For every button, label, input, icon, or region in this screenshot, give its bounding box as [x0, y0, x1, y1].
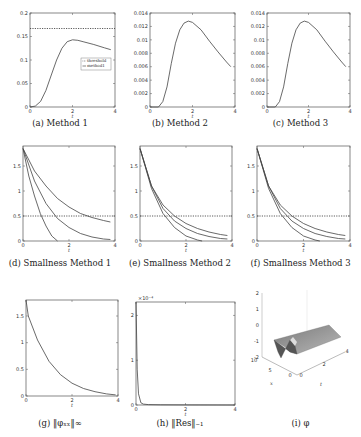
z-tick-label: 0	[256, 322, 259, 328]
y-tick-label: 0.014	[251, 10, 265, 16]
chart-g: 00.511.5024t	[0, 290, 120, 437]
x-tick-label: 4	[230, 242, 233, 248]
plot-frame	[26, 300, 118, 396]
panel-i: 210-1-21050024xt (i) φ	[240, 290, 361, 437]
series-res	[136, 302, 235, 405]
y-tick-label: 0.012	[251, 23, 265, 29]
panel-g: 00.511.5024t (g) ‖φₓₓ‖∞	[0, 290, 120, 437]
caption-b: (b) Method 2	[120, 118, 240, 128]
x-tick-label: 0	[24, 397, 27, 403]
y-scale-note: ×10⁻⁴	[138, 295, 153, 301]
y-tick-label: 0.004	[251, 77, 265, 83]
caption-a: (a) Method 1	[0, 118, 120, 128]
series-method1	[30, 40, 111, 107]
x-tick-label: 0	[265, 108, 268, 114]
series-curve2	[23, 149, 110, 240]
y-tick-label: 0.014	[134, 10, 148, 16]
series-method3	[267, 21, 346, 107]
y-tick-label: 0.008	[251, 50, 265, 56]
x-tick-label: 4	[113, 108, 116, 114]
x-tick-label: 4	[348, 242, 351, 248]
y-tick-label: 0.5	[247, 213, 255, 219]
y-tick-label: 0.008	[134, 50, 148, 56]
x-tick-label: 4	[233, 406, 236, 412]
y-tick-label: 1.5	[13, 163, 21, 169]
series-curve3	[23, 149, 110, 223]
z-tick-label: -1	[254, 338, 259, 344]
y-tick-label: 1.5	[130, 163, 138, 169]
y-tick-label: 2	[131, 312, 134, 318]
y-tick-label: 0.5	[13, 213, 21, 219]
series-curve2	[140, 149, 227, 240]
surface-plot: 210-1-21050024xt	[251, 290, 349, 387]
z-tick-label: 1	[256, 306, 259, 312]
y-tick-label: 0.006	[134, 63, 148, 69]
y-tick-label: 0.2	[20, 10, 28, 16]
plot-frame	[267, 13, 350, 107]
x-tick-label: 0	[148, 108, 151, 114]
y-tick-label: 0.5	[16, 366, 24, 372]
y-tick-label: 1	[252, 188, 255, 194]
chart-h: 012024t×10⁻⁴	[120, 290, 240, 437]
legend: thresholdmethod1	[81, 58, 111, 70]
caption-g: (g) ‖φₓₓ‖∞	[0, 418, 120, 428]
plot-frame	[150, 13, 235, 107]
x-tick-label: 0	[21, 242, 24, 248]
panel-h: 012024t×10⁻⁴ (h) ‖Res‖₋₁	[120, 290, 240, 437]
y-tick-label: 1	[135, 188, 138, 194]
series-curve1	[257, 149, 320, 242]
y-axis-label: x	[270, 380, 273, 386]
x-tick-label: 0	[255, 242, 258, 248]
x-tick-label: 4	[113, 242, 116, 248]
caption-c: (c) Method 3	[240, 118, 361, 128]
y-tick-label: 0.5	[130, 213, 138, 219]
y-tick-label: 1	[21, 339, 24, 345]
panel-f: 00.511.5024t (f) Smallness Method 3	[240, 140, 361, 290]
x-tick-label: 0	[299, 372, 302, 378]
y-tick-label: 1.5	[16, 313, 24, 319]
caption-f: (f) Smallness Method 3	[240, 258, 361, 268]
caption-h: (h) ‖Res‖₋₁	[120, 418, 240, 428]
y-tick-label: 0.004	[134, 77, 148, 83]
y-tick-label: 0.15	[17, 33, 28, 39]
series-phi_xx_inf	[26, 300, 116, 395]
y-tick-label: 10	[251, 357, 257, 363]
x-tick-label: 4	[233, 108, 236, 114]
y-tick-label: 0.01	[137, 37, 148, 43]
panel-d: 00.511.5024t (d) Smallness Method 1	[0, 140, 120, 290]
y-tick-label: 0.012	[134, 23, 148, 29]
y-tick-label: 5	[268, 367, 271, 373]
chart-i: 210-1-21050024xt	[240, 290, 361, 437]
x-tick-label: 2	[322, 361, 325, 367]
panel-c: 00.0020.0040.0060.0080.010.0120.014024t …	[240, 0, 361, 140]
plot-frame	[136, 302, 235, 405]
y-tick-label: 1	[18, 188, 21, 194]
y-tick-label: 0.1	[20, 57, 28, 63]
panel-b: 00.0020.0040.0060.0080.010.0120.014024t …	[120, 0, 240, 140]
x-tick-label: 4	[345, 348, 348, 354]
y-tick-label: 0.002	[251, 90, 265, 96]
x-axis-label: t	[320, 381, 323, 387]
y-tick-label: 0.006	[251, 63, 265, 69]
panel-a: 00.050.10.150.2024tthresholdmethod1 (a) …	[0, 0, 120, 140]
plot-frame	[23, 146, 115, 241]
y-tick-label: 0.002	[134, 90, 148, 96]
x-tick-label: 0	[138, 242, 141, 248]
x-tick-label: 0	[134, 406, 137, 412]
panel-e: 00.511.5024t (e) Smallness Method 2	[120, 140, 240, 290]
y-tick-label: 0.01	[254, 37, 265, 43]
series-curve1	[140, 149, 202, 242]
y-tick-label: 0	[288, 372, 291, 378]
y-tick-label: 0.05	[17, 80, 28, 86]
y-tick-label: 1.5	[247, 163, 255, 169]
caption-d: (d) Smallness Method 1	[0, 258, 120, 268]
caption-e: (e) Smallness Method 2	[120, 258, 240, 268]
series-method2	[150, 21, 231, 107]
legend-entry: method1	[87, 63, 105, 68]
caption-i: (i) φ	[240, 418, 361, 428]
y-tick-label: 1	[131, 357, 134, 363]
x-tick-label: 0	[28, 108, 31, 114]
z-tick-label: 2	[256, 290, 259, 296]
series-curve2	[257, 149, 345, 240]
x-tick-label: 4	[348, 108, 351, 114]
